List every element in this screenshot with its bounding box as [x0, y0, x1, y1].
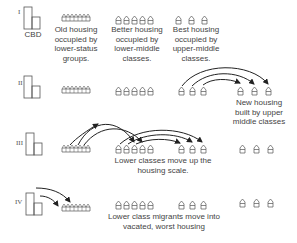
- old-housing-icon: [62, 14, 90, 21]
- old-housing-label: Old housing occupied by lower-status gro…: [48, 25, 104, 63]
- best-housing-label: Best housing occupied by upper-middle cl…: [168, 25, 224, 63]
- lower-classes-move-annotation: Lower classes move up the housing scale.: [110, 156, 216, 175]
- cbd-icon: [24, 7, 40, 29]
- stage-label-3: III: [16, 139, 23, 147]
- migrants-annotation: Lower class migrants move into vacated, …: [104, 212, 224, 231]
- cbd-icon: [26, 193, 42, 215]
- stage-label-4: IV: [15, 198, 22, 206]
- new-housing-annotation: New housing built by upper middle classe…: [228, 98, 290, 127]
- old-housing-icon: [62, 86, 90, 93]
- better-housing-label: Better housing occupied by lower-middle …: [106, 25, 168, 63]
- cbd-label: CBD: [20, 30, 46, 40]
- old-housing-icon: [62, 204, 90, 211]
- stage-3-row: [26, 124, 273, 155]
- old-housing-icon: [62, 145, 90, 152]
- cbd-icon: [24, 76, 40, 98]
- cbd-icon: [26, 133, 42, 155]
- stage-4-row: [26, 188, 273, 215]
- stage-label-1: I: [18, 8, 20, 16]
- stage-label-2: II: [18, 79, 23, 87]
- stage-2-row: [24, 68, 271, 98]
